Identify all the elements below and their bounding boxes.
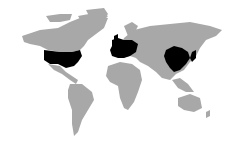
africa xyxy=(106,62,142,110)
north-america xyxy=(22,12,108,84)
australia xyxy=(178,94,202,112)
new-zealand xyxy=(206,110,210,118)
world-map xyxy=(0,0,242,146)
south-america xyxy=(68,84,94,136)
southeast-asia xyxy=(172,78,194,92)
